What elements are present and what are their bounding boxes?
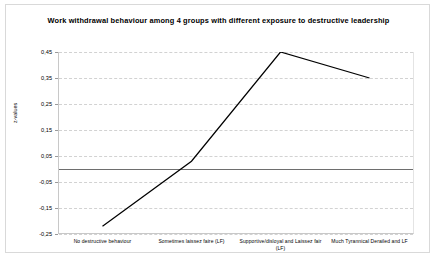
y-axis-tick-mark bbox=[55, 208, 58, 209]
chart-title: Work withdrawal behaviour among 4 groups… bbox=[6, 16, 431, 26]
y-axis-tick-mark bbox=[55, 130, 58, 131]
x-axis-category-label: Supportive/disloyal and Laissez fair (LF… bbox=[236, 238, 325, 252]
y-axis-tick-label: 0,45 bbox=[6, 49, 52, 55]
y-axis-tick-mark bbox=[55, 234, 58, 235]
y-axis-tick-mark bbox=[55, 78, 58, 79]
y-axis-tick-mark bbox=[55, 182, 58, 183]
gridline bbox=[59, 234, 413, 235]
y-axis-tick-label: 0,25 bbox=[6, 101, 52, 107]
x-axis-category-label: Much Tyrannical Derailed and LF bbox=[325, 238, 414, 252]
y-axis-tick-label: -0,15 bbox=[6, 205, 52, 211]
y-axis-tick-label: 0,15 bbox=[6, 127, 52, 133]
y-axis-tick-mark bbox=[55, 104, 58, 105]
y-axis-tick-mark bbox=[55, 156, 58, 157]
x-axis-category-label: No destructive behaviour bbox=[58, 238, 147, 252]
y-axis-tick-label: 0,05 bbox=[6, 153, 52, 159]
y-axis-tick-label: -0,25 bbox=[6, 231, 52, 237]
x-axis-labels: No destructive behaviourSometimes laisse… bbox=[58, 238, 414, 252]
y-axis-tick-mark bbox=[55, 52, 58, 53]
data-series-line bbox=[58, 52, 414, 234]
y-axis-tick-label: 0,35 bbox=[6, 75, 52, 81]
x-axis-category-label: Sometimes laissez faire (LF) bbox=[147, 238, 236, 252]
chart-frame: Work withdrawal behaviour among 4 groups… bbox=[5, 4, 430, 253]
y-axis-tick-label: -0,05 bbox=[6, 179, 52, 185]
